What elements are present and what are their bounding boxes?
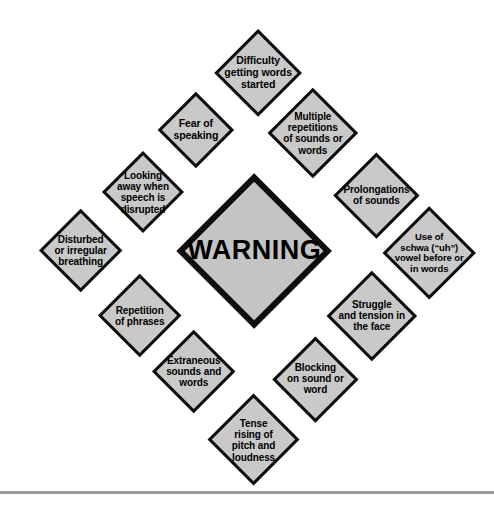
diamond-node-label: Prolongations of sounds	[335, 184, 417, 206]
diamond-node-use-of-schwa-uh-vowel-before-or-in-words: Use of schwa (“uh”) vowel before or in w…	[382, 206, 476, 300]
diamond-node-looking-away-when-speech-is-disrupted: Looking away when speech is disrupted	[102, 151, 184, 233]
diagram-canvas: Difficulty getting words startedMultiple…	[0, 0, 494, 506]
center-diamond-warning: WARNING	[176, 173, 332, 329]
diamond-node-label: Struggle and tension in the face	[329, 299, 415, 333]
diamond-node-label: Repetition of phrases	[100, 305, 180, 327]
diamond-node-label: Multiple repetitions of sounds or words	[270, 111, 356, 156]
diamond-node-repetition-of-phrases: Repetition of phrases	[98, 274, 182, 358]
diamond-node-blocking-on-sound-or-word: Blocking on sound or word	[272, 336, 358, 422]
diamond-node-label: Difficulty getting words started	[216, 55, 300, 90]
diamond-node-label: Use of schwa (“uh”) vowel before or in w…	[384, 232, 475, 275]
diamond-node-fear-of-speaking: Fear of speaking	[158, 92, 234, 168]
center-diamond-label: WARNING	[180, 237, 327, 264]
diamond-node-difficulty-getting-words-started: Difficulty getting words started	[214, 29, 302, 117]
diamond-node-extraneous-sounds-and-words: Extraneous sounds and words	[152, 330, 236, 414]
diamond-node-tense-rising-of-pitch-and-loudness: Tense rising of pitch and loudness	[208, 394, 300, 486]
diamond-node-label: Extraneous sounds and words	[154, 355, 234, 389]
diamond-node-label: Fear of speaking	[160, 118, 232, 142]
diamond-node-prolongations-of-sounds: Prolongations of sounds	[333, 152, 419, 238]
diamond-node-label: Looking away when speech is disrupted	[104, 170, 182, 215]
diamond-node-label: Blocking on sound or word	[274, 362, 356, 396]
diamond-node-label: Tense rising of pitch and loudness	[210, 418, 299, 463]
diamond-node-label: Disturbed or irregular breathing	[41, 234, 121, 268]
diamond-node-struggle-and-tension-in-the-face: Struggle and tension in the face	[327, 271, 417, 361]
diamond-node-multiple-repetitions-of-sounds-or-words: Multiple repetitions of sounds or words	[268, 88, 358, 178]
footer-divider-rule	[0, 491, 494, 494]
diamond-node-disturbed-or-irregular-breathing: Disturbed or irregular breathing	[39, 209, 123, 293]
